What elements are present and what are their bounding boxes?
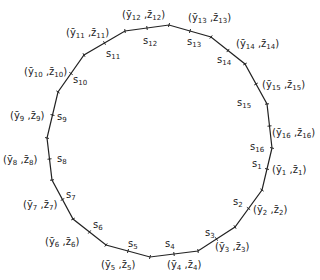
side-label: s13 [187,36,201,49]
side-label: s8 [57,153,67,166]
vertex-coordinate-label: (ȳ12 ,z̄12) [122,9,165,22]
vertex-tick [270,148,274,149]
vertex-coordinate-label: (ȳ4 ,z̄4) [167,259,201,272]
side-label: s9 [57,111,67,124]
vertex-tick [149,255,150,259]
vertex-coordinate-label: (ȳ7 ,z̄7) [23,199,57,212]
side-label: s15 [237,97,251,110]
vertex-coordinate-label: (ȳ3 ,z̄3) [215,241,249,254]
vertex-coordinate-label: (ȳ15 ,z̄15) [262,79,305,92]
side-label: s4 [165,238,175,251]
vertex-coordinate-label: (ȳ9 ,z̄9) [10,110,44,123]
vertex-coordinate-label: (ȳ6 ,z̄6) [45,236,79,249]
side-label: s10 [73,74,87,87]
midpoint-tick [127,249,128,253]
vertex-tick [45,138,49,139]
vertex-coordinate-label: (ȳ16 ,z̄16) [272,127,315,140]
vertex-tick [125,29,126,33]
vertex-tick [168,23,169,27]
polygon-outline [47,25,272,257]
vertex-coordinate-label: (ȳ2 ,z̄2) [253,204,287,217]
side-label: s11 [106,48,120,61]
diagram-canvas: s1s2s3s4s5s6s7s8s9s10s11s12s13s14s15s16(… [0,0,320,280]
midpoint-tick [189,29,190,33]
midpoint-tick [265,169,269,170]
side-label: s1 [252,158,262,171]
side-label: s5 [128,238,138,251]
side-label: s2 [233,196,243,209]
side-label: s16 [250,141,265,154]
vertex-coordinate-label: (ȳ14 ,z̄14) [236,38,279,51]
side-label: s14 [217,54,232,67]
vertex-coordinate-label: (ȳ1 ,z̄1) [272,164,306,177]
side-label: s3 [205,227,215,240]
side-label: s7 [66,189,76,202]
vertex-coordinate-label: (ȳ8 ,z̄8) [3,154,37,167]
side-label: s6 [93,219,103,232]
vertex-coordinate-label: (ȳ10 ,z̄10) [24,66,67,79]
midpoint-tick [51,115,55,116]
polygon-diagram: s1s2s3s4s5s6s7s8s9s10s11s12s13s14s15s16(… [0,0,320,280]
vertex-coordinate-label: (ȳ11 ,z̄11) [66,27,109,40]
vertex-coordinate-label: (ȳ13 ,z̄13) [188,12,231,25]
side-label: s12 [143,35,157,48]
midpoint-tick [147,26,148,30]
vertex-coordinate-label: (ȳ5 ,z̄5) [101,259,135,272]
